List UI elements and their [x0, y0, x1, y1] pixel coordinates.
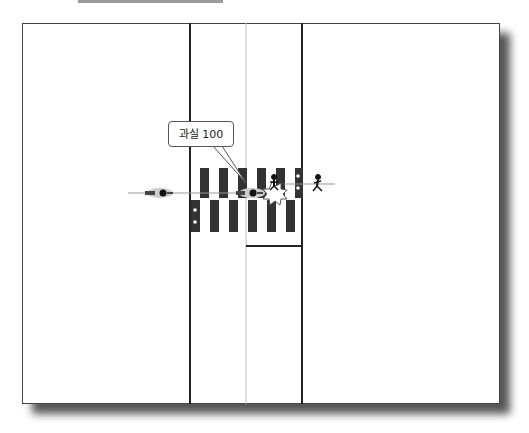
road-diagram	[0, 0, 529, 433]
callout-pointer	[213, 146, 246, 183]
pedestrian-icon	[313, 175, 322, 192]
fault-callout: 과실 100	[168, 121, 234, 147]
crosswalk	[191, 168, 303, 232]
motorcycle-icon	[145, 188, 173, 198]
